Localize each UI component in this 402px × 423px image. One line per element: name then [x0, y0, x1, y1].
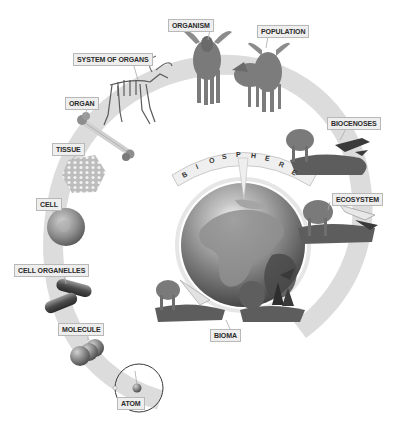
- label-population: POPULATION: [257, 25, 309, 38]
- population-moose-icon: [232, 43, 290, 112]
- label-atom: ATOM: [117, 397, 145, 410]
- label-molecule: MOLECULE: [58, 323, 104, 336]
- label-cell-organelles: CELL ORGANELLES: [14, 264, 89, 277]
- biosphere-letter: H: [251, 152, 257, 160]
- label-ecosystem: ECOSYSTEM: [332, 193, 383, 206]
- levels-of-organization-diagram: B I O S P H E R E ATOM MOLECULE CELL ORG…: [0, 0, 402, 423]
- label-bioma: BIOMA: [210, 329, 241, 342]
- label-biocenoses: BIOCENOSES: [327, 117, 381, 130]
- biocenoses-scene-icon: [286, 129, 370, 175]
- biosphere-letter: P: [236, 151, 241, 158]
- label-organ: ORGAN: [65, 97, 99, 110]
- label-system-of-organs: SYSTEM OF ORGANS: [73, 53, 153, 66]
- label-tissue: TISSUE: [52, 143, 85, 156]
- label-organism: ORGANISM: [168, 19, 214, 32]
- diagram-artwork: [0, 0, 402, 423]
- cell-icon: [47, 208, 85, 246]
- biosphere-letter: S: [222, 153, 227, 161]
- label-cell: CELL: [36, 198, 62, 211]
